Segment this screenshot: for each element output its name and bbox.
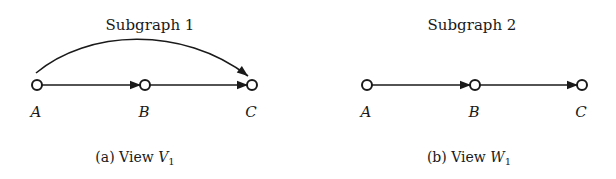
node-label-b: B (467, 103, 479, 121)
diagram-canvas: Subgraph 1 ABC (a) View V1 Subgraph 2 AB… (0, 0, 616, 179)
node-label-a: A (359, 103, 372, 121)
panel-view-v1: Subgraph 1 ABC (a) View V1 (29, 16, 258, 167)
caption-subscript: 1 (168, 156, 174, 167)
subgraph-title: Subgraph 1 (106, 16, 195, 34)
node-a (362, 80, 372, 90)
caption-prefix: (a) View (95, 149, 158, 165)
node-labels-group: ABC (359, 103, 588, 121)
node-label-c: C (245, 103, 257, 121)
node-c (577, 80, 587, 90)
node-label-a: A (29, 103, 42, 121)
panel-caption: (b) View W1 (427, 149, 511, 167)
caption-subscript: 1 (505, 156, 511, 167)
subgraph-title: Subgraph 2 (428, 16, 517, 34)
node-label-c: C (575, 103, 587, 121)
arrowhead-icon (237, 66, 248, 76)
panel-view-w1: Subgraph 2 ABC (b) View W1 (359, 16, 588, 167)
node-b (470, 80, 480, 90)
caption-prefix: (b) View (427, 149, 490, 165)
edge-a-c-curved (36, 39, 248, 76)
node-a (32, 80, 42, 90)
panel-caption: (a) View V1 (95, 149, 174, 167)
node-c (247, 80, 257, 90)
node-label-b: B (137, 103, 149, 121)
node-b (140, 80, 150, 90)
node-labels-group: ABC (29, 103, 258, 121)
